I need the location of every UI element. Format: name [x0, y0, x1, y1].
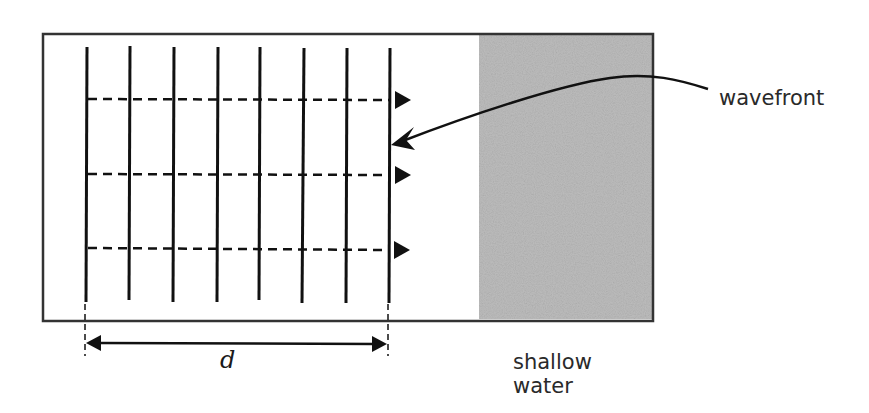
distance-label: d	[220, 346, 235, 374]
wavefront-line	[173, 47, 174, 302]
wavefront-line	[86, 47, 87, 302]
distance-dimension	[85, 304, 388, 356]
ray-arrowhead-icon	[394, 241, 410, 259]
ray-line	[88, 174, 389, 175]
wavefront-line	[217, 47, 218, 302]
rays	[88, 91, 411, 259]
shallow-water-label-line2: water	[513, 374, 592, 398]
wavefront-label: wavefront	[719, 86, 824, 110]
shallow-water-region	[479, 35, 652, 319]
dimension-arrowhead-right-icon	[372, 336, 387, 352]
ray-line	[88, 248, 389, 250]
ray-arrowhead-icon	[395, 166, 411, 184]
wave-diagram	[0, 0, 869, 413]
ray-arrowhead-icon	[395, 91, 411, 109]
wavefront-line	[129, 46, 130, 300]
ray-line	[88, 99, 389, 100]
shallow-water-label-line1: shallow	[513, 350, 592, 374]
dimension-arrowhead-left-icon	[86, 335, 101, 351]
wavefront-line	[389, 48, 390, 303]
shallow-water-label: shallow water	[513, 350, 592, 398]
